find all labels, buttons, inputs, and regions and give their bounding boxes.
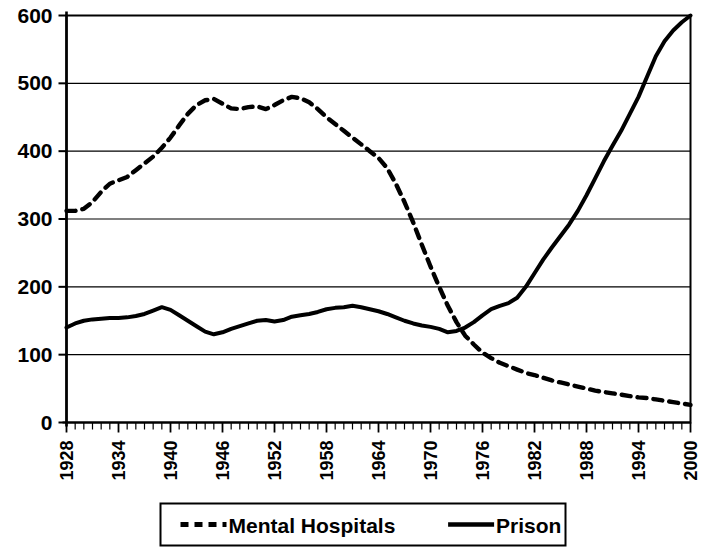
x-tick-label: 1994 [629, 441, 649, 481]
x-tick-label: 1964 [369, 441, 389, 481]
x-tick-label: 1970 [421, 441, 441, 481]
y-tick-label: 200 [17, 275, 52, 298]
x-tick-label: 1988 [577, 441, 597, 481]
line-chart: 6005004003002001000 19281934194019461952… [0, 0, 711, 560]
y-tick-label: 100 [17, 343, 52, 366]
x-tick-label: 1958 [317, 441, 337, 481]
y-tick-label: 400 [17, 139, 52, 162]
x-tick-label: 1982 [525, 441, 545, 481]
x-tick-label: 1940 [161, 441, 181, 481]
x-tick-label: 1934 [109, 441, 129, 481]
legend-label: Mental Hospitals [229, 514, 396, 537]
y-tick-label: 300 [17, 207, 52, 230]
y-tick-label: 500 [17, 71, 52, 94]
chart-legend: Mental HospitalsPrison [161, 504, 566, 546]
x-tick-label: 1952 [265, 441, 285, 481]
x-tick-label: 1928 [57, 441, 77, 481]
y-tick-label: 0 [41, 411, 53, 434]
chart-background [0, 0, 711, 560]
chart-figure: 6005004003002001000 19281934194019461952… [0, 0, 711, 560]
x-tick-label: 1976 [473, 441, 493, 481]
legend-label: Prison [496, 514, 561, 537]
x-tick-label: 1946 [213, 441, 233, 481]
y-tick-label: 600 [17, 4, 52, 27]
x-tick-label: 2000 [681, 441, 701, 481]
